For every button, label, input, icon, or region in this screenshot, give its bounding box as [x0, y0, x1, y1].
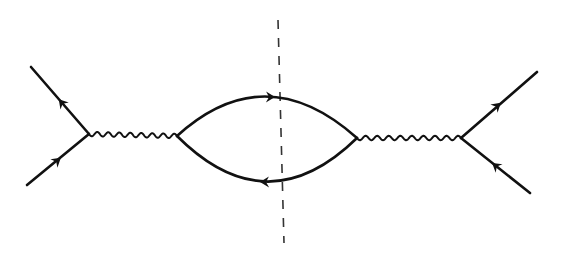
arrowheads: [50, 91, 502, 187]
cut-line: [278, 20, 284, 243]
loop-upper-arc: [177, 96, 357, 138]
cut-line-group: [278, 20, 284, 243]
fermion-loop: [177, 96, 357, 181]
external-fermion-lines: [27, 67, 537, 193]
photon-propagators: [89, 132, 461, 140]
photon-left-wavy-line: [89, 132, 177, 138]
photon-right-wavy-line: [357, 136, 461, 140]
feynman-diagram: [0, 0, 566, 257]
loop-lower-arc: [177, 136, 357, 182]
